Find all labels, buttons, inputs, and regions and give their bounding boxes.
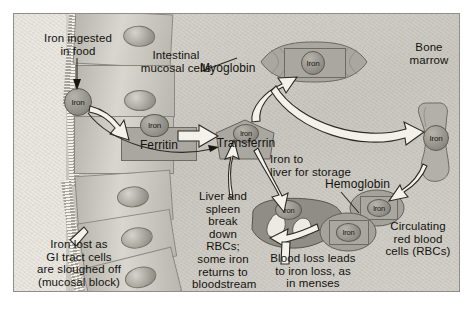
label-circulating-rbc: Circulating red blood cells (RBCs) [374, 220, 460, 258]
label-blood-loss: Blood loss leads to iron loss, as in men… [256, 252, 370, 290]
label-iron-ingested: Iron ingested in food [28, 32, 128, 57]
label-ferritin: Ferritin [123, 139, 195, 152]
label-transferrin: Transferrin [212, 137, 280, 150]
label-hemoglobin: Hemoglobin [325, 178, 417, 191]
label-myoglobin: Myoglobin [200, 62, 270, 75]
label-liver-spleen: Liver and spleen break down RBCs; some i… [192, 190, 254, 291]
label-iron-to-liver: Iron to liver for storage [270, 153, 390, 178]
iron-metabolism-diagram: Iron Iron Iron Iron Iron Iron Iron [13, 13, 460, 292]
label-iron-lost: Iron lost as GI tract cells are sloughed… [17, 238, 141, 288]
label-bone-marrow: Bone marrow [398, 41, 460, 66]
